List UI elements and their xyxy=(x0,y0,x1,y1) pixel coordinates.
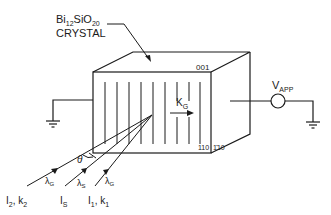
beam-1-label: I1, k1 xyxy=(88,195,109,208)
crystal-diagram: Bi12SiO20 CRYSTAL 001 110 1̄10 KG xyxy=(0,0,331,215)
crystal-formula-sub-20: 20 xyxy=(92,20,100,27)
arrowhead-icon xyxy=(145,55,151,62)
crystal-formula-sub-12: 12 xyxy=(66,20,74,27)
svg-text:KG: KG xyxy=(176,97,188,110)
left-electrode-ground xyxy=(46,100,93,127)
face-label-001: 001 xyxy=(196,63,210,72)
crystal-label: Bi12SiO20 CRYSTAL xyxy=(56,13,106,39)
face-label-1bar10: 1̄10 xyxy=(213,144,225,151)
beam-2-wavevector-sub: 2 xyxy=(23,201,27,208)
beam-1-arrow-icon xyxy=(103,169,109,175)
beam-1-wavevector-sub: 1 xyxy=(105,201,109,208)
crystal-right-face xyxy=(211,52,250,153)
angle-theta-label: θ xyxy=(77,154,83,165)
svg-text:Bi12SiO20: Bi12SiO20 xyxy=(56,13,100,27)
voltage-label: VAPP xyxy=(272,79,294,93)
beam-s-intensity-sub: S xyxy=(63,201,68,208)
beam-2-arrow-icon xyxy=(51,168,58,174)
beam-2-label: I2, k2 xyxy=(6,195,27,208)
beam-2-wavelength-sub: G xyxy=(50,181,55,187)
beam-1-wavelength: λG xyxy=(105,176,115,187)
beam-s-wavelength-sub: S xyxy=(82,183,86,189)
crystal-top-face xyxy=(93,52,250,72)
beam-1-wavelength-sub: G xyxy=(110,181,115,187)
beam-s-wavelength: λS xyxy=(77,178,86,189)
arrow-right-icon xyxy=(187,110,194,116)
voltage-source-icon xyxy=(271,94,285,108)
voltage-label-sub: APP xyxy=(279,86,293,93)
beam-2-wavelength: λG xyxy=(45,176,55,187)
face-label-110: 110 xyxy=(198,144,209,151)
label-leader-arrow xyxy=(107,24,151,62)
beam-s-label: IS xyxy=(60,195,68,208)
crystal-formula-bi: Bi xyxy=(56,13,66,25)
beam-1-line xyxy=(95,115,152,186)
grating-vector: KG xyxy=(170,97,194,116)
right-electrode-circuit: VAPP xyxy=(230,79,320,128)
grating-vector-sub: G xyxy=(183,103,188,110)
beam-s-arrow-icon xyxy=(81,168,87,174)
crystal-label-line2: CRYSTAL xyxy=(56,27,106,39)
crystal-front-face xyxy=(93,72,211,153)
crystal-formula-sio: SiO xyxy=(74,13,93,25)
